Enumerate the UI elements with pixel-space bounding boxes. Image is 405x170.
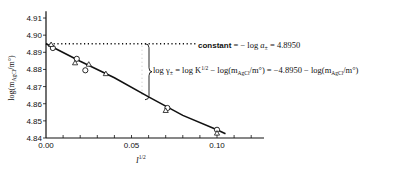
y-tick-label: 4.89	[26, 48, 42, 57]
difference-brace	[142, 44, 152, 100]
x-tick-label: 0.10	[209, 141, 225, 150]
triangle-marker	[49, 42, 54, 47]
y-tick-label: 4.85	[26, 117, 42, 126]
tick-labels: 4.844.854.864.874.884.894.904.910.000.05…	[26, 14, 225, 150]
x-tick-label: 0.05	[124, 141, 140, 150]
y-tick-label: 4.88	[26, 65, 42, 74]
fit-curve	[46, 44, 226, 134]
chart: 4.844.854.864.874.884.894.904.910.000.05…	[0, 0, 405, 170]
y-tick-label: 4.87	[26, 83, 42, 92]
y-axis-title: log(mAgCl/m°)	[7, 55, 17, 101]
y-tick-label: 4.86	[26, 100, 42, 109]
gamma-equation-annotation: log γ± = log K1/2 − log(mAgCl/m°) = −4.8…	[153, 65, 359, 76]
y-tick-label: 4.90	[26, 31, 42, 40]
y-tick-label: 4.91	[26, 14, 42, 23]
constant-annotation: constant = − log a± = 4.8950	[198, 40, 300, 51]
x-tick-label: 0.00	[38, 141, 54, 150]
curly-brace-icon	[145, 44, 152, 100]
circle-marker	[83, 68, 88, 73]
x-axis-title: I1/2	[135, 154, 146, 165]
tick-marks	[43, 18, 251, 138]
fit-curve-line	[46, 44, 226, 134]
